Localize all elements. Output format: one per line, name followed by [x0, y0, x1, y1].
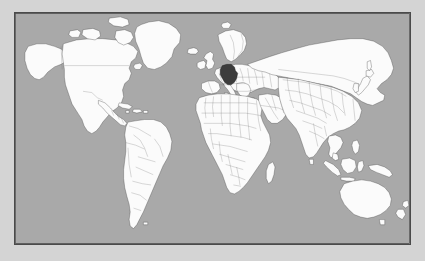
landmass-jamaica	[126, 111, 129, 114]
landmass-banks-island	[69, 30, 81, 38]
map-frame[interactable]	[14, 12, 411, 245]
landmass-falklands	[143, 222, 147, 225]
landmass-puerto-rico	[143, 111, 147, 114]
world-map-svg[interactable]	[15, 13, 410, 244]
landmass-tasmania	[379, 220, 384, 225]
page-root	[0, 0, 425, 261]
